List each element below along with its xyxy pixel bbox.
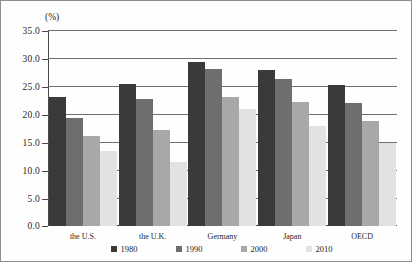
- bar-1980: [258, 70, 275, 226]
- legend-swatch-icon: [111, 246, 117, 252]
- legend-label: 2010: [316, 244, 333, 254]
- x-axis-tick-label: Japan: [283, 232, 301, 241]
- y-axis-tick-label: 10.0: [23, 166, 40, 176]
- bar-1990: [66, 118, 83, 226]
- bar-2010: [100, 151, 117, 226]
- bar-group: the U.S.: [48, 30, 118, 226]
- bar-1980: [49, 97, 66, 226]
- bar-group: Japan: [257, 30, 327, 226]
- bar-1980: [188, 62, 205, 226]
- bar-group: Germany: [188, 30, 258, 226]
- bar-2000: [362, 121, 379, 226]
- legend-swatch-icon: [306, 246, 312, 252]
- bar-1990: [136, 99, 153, 226]
- bar-1990: [205, 69, 222, 226]
- chart-legend: 1980199020002010: [48, 244, 395, 254]
- bar-2000: [292, 102, 309, 226]
- bar-1990: [345, 103, 362, 226]
- bar-1990: [275, 79, 292, 226]
- x-axis-tick-label: the U.K.: [139, 232, 166, 241]
- y-axis-unit-label: (%): [45, 12, 59, 22]
- y-axis-tick-label: 35.0: [23, 26, 40, 36]
- x-axis-tick-label: the U.S.: [70, 232, 96, 241]
- legend-label: 1990: [186, 244, 203, 254]
- legend-swatch-icon: [241, 246, 247, 252]
- bar-groups: the U.S.the U.K.GermanyJapanOECD: [48, 30, 397, 226]
- bar-group: OECD: [327, 30, 397, 226]
- y-axis-tick-label: 15.0: [23, 138, 40, 148]
- bar-2010: [379, 143, 396, 226]
- y-axis-tick-label: 20.0: [23, 110, 40, 120]
- y-axis-tick-label: 5.0: [28, 194, 40, 204]
- bar-1980: [328, 85, 345, 226]
- legend-item-2000: 2000: [241, 244, 268, 254]
- bar-2010: [170, 162, 187, 226]
- bar-2000: [83, 136, 100, 226]
- plot-area: 35.030.025.020.015.010.05.00.0 the U.S.t…: [48, 30, 397, 226]
- bar-2000: [153, 130, 170, 226]
- bar-1980: [119, 84, 136, 226]
- y-axis-tick-label: 0.0: [28, 221, 40, 231]
- y-axis-tick: [42, 226, 48, 227]
- y-axis-tick-label: 30.0: [23, 54, 40, 64]
- legend-item-1980: 1980: [111, 244, 138, 254]
- bar-2000: [222, 97, 239, 226]
- bar-chart-figure: (%) 35.030.025.020.015.010.05.00.0 the U…: [0, 0, 412, 262]
- legend-item-1990: 1990: [176, 244, 203, 254]
- legend-label: 2000: [251, 244, 268, 254]
- legend-swatch-icon: [176, 246, 182, 252]
- bar-2010: [309, 126, 326, 226]
- bar-group: the U.K.: [118, 30, 188, 226]
- bar-2010: [239, 109, 256, 226]
- y-axis-tick-label: 25.0: [23, 82, 40, 92]
- x-axis-tick-label: OECD: [351, 232, 373, 241]
- x-axis-tick-label: Germany: [208, 232, 238, 241]
- legend-item-2010: 2010: [306, 244, 333, 254]
- legend-label: 1980: [121, 244, 138, 254]
